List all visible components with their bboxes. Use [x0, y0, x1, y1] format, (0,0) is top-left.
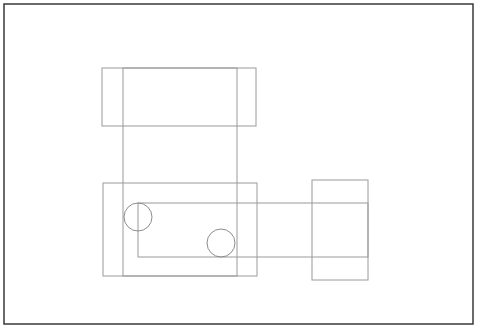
drawing-canvas[interactable] [0, 0, 484, 334]
canvas-background [0, 0, 484, 334]
figure-svg[interactable] [0, 0, 484, 334]
